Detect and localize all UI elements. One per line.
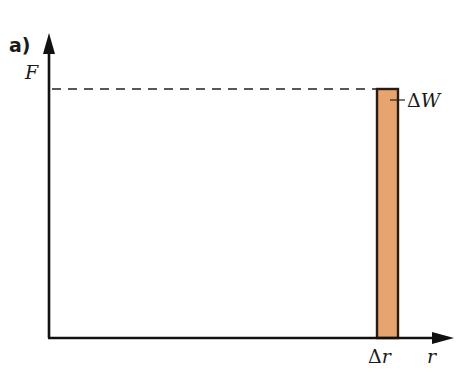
x-axis-arrow-icon xyxy=(432,332,454,344)
delta-w-delta: Δ xyxy=(407,89,421,111)
work-element-diagram: a) F ΔW Δr r xyxy=(0,0,474,378)
y-axis-label: F xyxy=(24,61,39,83)
x-axis-label: r xyxy=(427,345,438,367)
panel-label: a) xyxy=(9,34,31,56)
work-element-bar xyxy=(377,89,398,338)
delta-r-label: Δr xyxy=(368,345,393,367)
delta-w-label: ΔW xyxy=(407,89,442,111)
delta-r-delta: Δ xyxy=(368,345,382,367)
delta-w-var: W xyxy=(421,89,442,111)
y-axis-arrow-icon xyxy=(43,33,55,54)
delta-r-var: r xyxy=(382,345,393,367)
